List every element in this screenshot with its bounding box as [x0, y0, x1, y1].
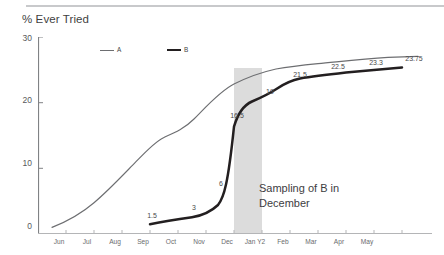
x-tick-label-oct: Oct — [166, 238, 176, 245]
data-label-b-feb: 21.5 — [293, 71, 307, 78]
data-label-b-nov: 6 — [219, 180, 223, 187]
x-tick-label-jul: Jul — [83, 238, 91, 245]
data-label-b-jan: 19 — [266, 88, 274, 95]
y-tick-label-10: 10 — [10, 158, 32, 168]
chart-annotation: Sampling of B in December — [259, 181, 339, 211]
x-tick-label-nov: Nov — [193, 238, 205, 245]
slide-top-divider — [26, 5, 444, 7]
data-label-b-mar: 22.5 — [331, 63, 345, 70]
x-tick-label-apr: Apr — [334, 238, 344, 245]
data-label-b-sep: 1.5 — [147, 212, 157, 219]
plot-svg — [38, 37, 432, 234]
x-tick-label-may: May — [361, 238, 373, 245]
y-tick-label-30: 30 — [10, 33, 32, 43]
chart-canvas: % Ever Tried A B 30 20 10 0 — [0, 0, 444, 255]
chart-title: % Ever Tried — [22, 13, 89, 25]
y-tick-label-0: 0 — [10, 221, 32, 231]
data-label-b-may: 23.75 — [405, 55, 423, 62]
x-tick-label-sep: Sep — [137, 238, 149, 245]
x-tick-label-jan: Jan Y2 — [245, 238, 265, 245]
december-highlight-band — [234, 68, 262, 234]
x-tick-label-dec: Dec — [221, 238, 233, 245]
y-tick-label-20: 20 — [10, 95, 32, 105]
data-label-b-oct: 3 — [192, 204, 196, 211]
x-tick-label-feb: Feb — [277, 238, 288, 245]
x-tick-label-aug: Aug — [109, 238, 121, 245]
plot-area: 1.5 3 6 16.5 19 21.5 22.5 23.3 23.75 — [38, 37, 432, 234]
x-tick-label-jun: Jun — [54, 238, 65, 245]
data-label-b-apr: 23.3 — [369, 59, 383, 66]
data-label-b-dec: 16.5 — [230, 112, 244, 119]
x-tick-label-mar: Mar — [305, 238, 316, 245]
